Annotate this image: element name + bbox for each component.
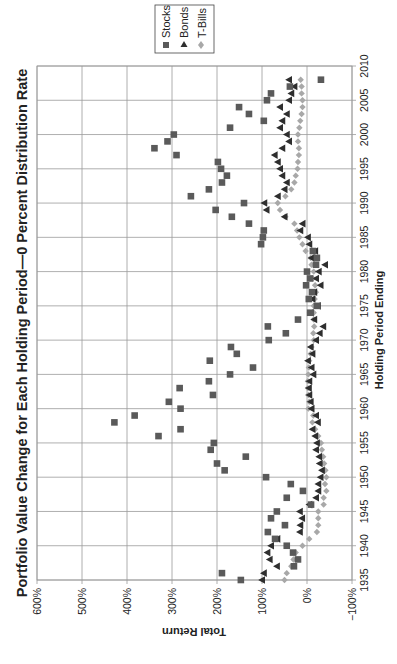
data-point-stocks — [307, 275, 314, 282]
legend-label-bonds: Bonds — [178, 6, 190, 38]
data-point-tbills — [297, 118, 303, 124]
data-point-stocks — [295, 556, 302, 563]
data-point-bonds — [276, 124, 283, 132]
data-point-bonds — [283, 179, 290, 187]
data-point-stocks — [307, 309, 314, 316]
data-point-stocks — [268, 515, 275, 522]
data-point-stocks — [151, 145, 158, 152]
data-point-tbills — [295, 138, 301, 144]
legend: Stocks Bonds T-Bills — [155, 4, 214, 53]
y-tick-label: 400% — [121, 588, 133, 615]
data-point-bonds — [285, 138, 292, 146]
data-point-stocks — [207, 357, 214, 364]
data-point-stocks — [241, 200, 248, 207]
data-point-bonds — [314, 480, 321, 488]
y-tick-label: 500% — [76, 588, 88, 615]
data-point-tbills — [315, 508, 321, 514]
data-point-stocks — [265, 337, 272, 344]
data-point-tbills — [310, 330, 316, 336]
data-point-bonds — [281, 213, 288, 221]
data-point-stocks — [211, 440, 218, 447]
data-point-bonds — [318, 467, 325, 475]
data-point-bonds — [317, 473, 324, 481]
x-tick-label: 1935 — [358, 568, 370, 592]
data-point-bonds — [260, 569, 267, 577]
data-point-tbills — [314, 529, 320, 535]
data-point-bonds — [310, 371, 317, 379]
data-point-tbills — [295, 159, 301, 165]
data-point-bonds — [273, 562, 280, 570]
data-point-tbills — [298, 83, 304, 89]
data-point-tbills — [315, 522, 321, 528]
data-point-stocks — [288, 481, 295, 488]
data-point-stocks — [265, 323, 272, 330]
data-point-stocks — [313, 261, 320, 268]
data-point-tbills — [275, 200, 281, 206]
data-point-bonds — [316, 460, 323, 468]
data-point-bonds — [278, 172, 285, 180]
y-tick-label: 600% — [31, 588, 43, 615]
plot-frame — [37, 66, 352, 580]
data-point-stocks — [295, 316, 302, 323]
data-point-bonds — [274, 158, 281, 166]
x-tick-label: 1995 — [358, 157, 370, 181]
data-point-tbills — [311, 323, 317, 329]
data-point-tbills — [299, 241, 305, 247]
data-point-tbills — [284, 570, 290, 576]
data-point-stocks — [290, 549, 297, 556]
data-point-tbills — [322, 481, 328, 487]
legend-label-stocks: Stocks — [160, 4, 172, 38]
data-point-tbills — [291, 179, 297, 185]
data-point-stocks — [246, 111, 253, 118]
y-tick-label: 200% — [211, 588, 223, 615]
data-point-stocks — [303, 282, 310, 289]
x-tick-label: 1940 — [358, 534, 370, 558]
data-point-bonds — [276, 103, 283, 111]
data-point-bonds — [278, 144, 285, 152]
data-point-stocks — [206, 378, 213, 385]
data-point-stocks — [283, 494, 290, 501]
data-point-stocks — [318, 76, 325, 83]
x-tick-label: 1985 — [358, 225, 370, 249]
data-point-tbills — [291, 220, 297, 226]
data-point-stocks — [173, 152, 180, 159]
data-point-tbills — [281, 577, 287, 583]
data-point-stocks — [176, 385, 183, 392]
data-point-bonds — [307, 398, 314, 406]
data-point-bonds — [309, 425, 316, 433]
data-point-stocks — [212, 207, 219, 214]
data-point-stocks — [304, 268, 311, 275]
x-tick-label: 2010 — [358, 54, 370, 78]
y-tick-label: 100% — [256, 588, 268, 615]
x-tick-label: 1980 — [358, 260, 370, 284]
data-point-stocks — [206, 186, 213, 193]
data-point-stocks — [260, 234, 267, 241]
data-point-stocks — [238, 577, 245, 584]
data-point-tbills — [299, 104, 305, 110]
data-point-stocks — [287, 83, 294, 90]
x-tick-label: 1990 — [358, 191, 370, 215]
data-point-tbills — [293, 172, 299, 178]
data-point-bonds — [271, 151, 278, 159]
data-point-stocks — [131, 412, 138, 419]
data-point-stocks — [215, 159, 222, 166]
x-tick-label: 2005 — [358, 88, 370, 112]
data-point-bonds — [296, 528, 303, 536]
y-tick-label: 0% — [301, 588, 313, 603]
data-point-tbills — [295, 131, 301, 137]
data-point-stocks — [214, 460, 221, 467]
data-point-stocks — [210, 392, 217, 399]
data-point-stocks — [164, 138, 171, 145]
data-point-stocks — [219, 179, 226, 186]
data-point-bonds — [296, 521, 303, 529]
data-point-bonds — [311, 432, 318, 440]
data-point-tbills — [282, 193, 288, 199]
data-point-bonds — [304, 234, 311, 242]
data-point-tbills — [298, 90, 304, 96]
data-point-bonds — [298, 515, 305, 523]
data-point-bonds — [281, 186, 288, 194]
data-point-tbills — [323, 488, 329, 494]
data-point-stocks — [177, 405, 184, 412]
data-point-bonds — [263, 206, 270, 214]
data-point-stocks — [218, 166, 225, 173]
